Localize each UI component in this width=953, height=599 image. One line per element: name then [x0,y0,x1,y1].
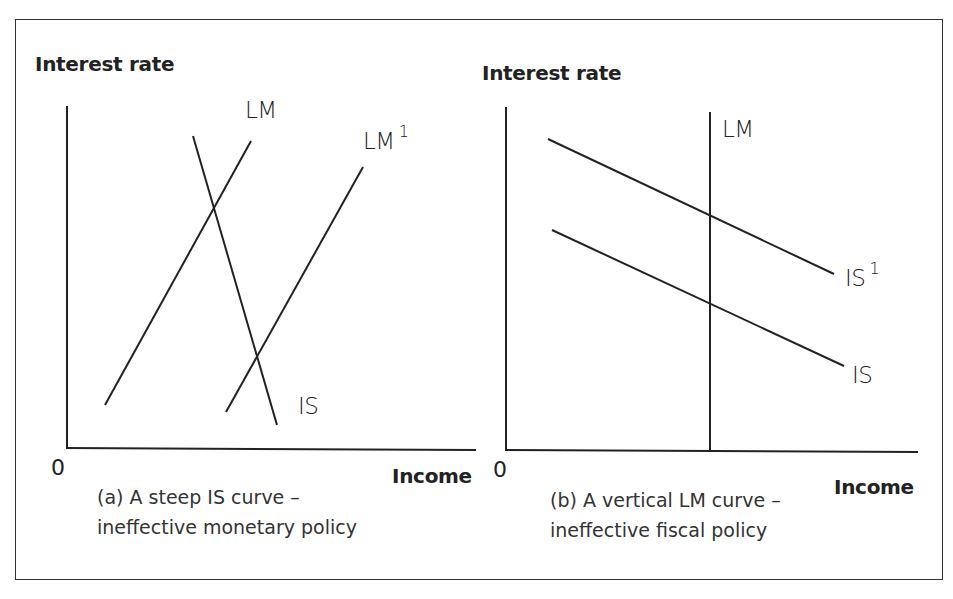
panel-a-lm1-label: LM1 [363,128,408,154]
panel-a-caption-line2: ineffective monetary policy [97,512,357,542]
panel-a-caption: (a) A steep IS curve – ineffective monet… [97,482,357,542]
panel-b-is-label: IS [852,362,872,388]
panel-b-is1-curve [548,139,834,274]
panel-a-origin-label: 0 [51,455,65,480]
panel-b-is1-superscript: 1 [869,259,879,278]
panel-a-lm1-superscript: 1 [399,122,409,141]
panel-b-x-axis [505,450,918,452]
panel-b-caption: (b) A vertical LM curve – ineffective fi… [550,485,781,545]
panel-a-caption-line1: (a) A steep IS curve – [97,482,357,512]
panel-a-lm-label: LM [245,97,277,123]
panel-b-origin-label: 0 [493,457,507,482]
panel-a-lm-curve [105,141,251,405]
panel-a-y-axis-title: Interest rate [35,52,174,76]
panel-b-is1-text: IS [845,265,865,291]
panel-b-x-axis-title: Income [834,475,914,499]
panel-b-caption-line1: (b) A vertical LM curve – [550,485,781,515]
panel-b-is1-label: IS1 [845,265,879,291]
panel-a-x-axis [66,448,476,450]
panel-a-x-axis-title: Income [392,464,472,488]
panel-a-is-curve [193,136,277,425]
panel-b-lm-label: LM [722,116,754,142]
panel-a-lm1-text: LM [363,128,395,154]
panel-b-y-axis-title: Interest rate [482,61,621,85]
panel-b-is-curve [552,230,844,366]
panel-a-is-label: IS [298,393,318,419]
panel-b-caption-line2: ineffective fiscal policy [550,515,781,545]
panel-a-lm1-curve [226,167,363,412]
